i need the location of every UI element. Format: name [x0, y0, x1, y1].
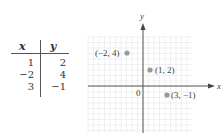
point-label: (3, −1) [171, 90, 196, 100]
x-axis-arrow-icon [208, 84, 215, 89]
point-label: (1, 2) [155, 65, 175, 75]
point-label: (−2, 4) [95, 48, 120, 58]
y-axis-label: y [139, 11, 144, 21]
x-axis-label: x [216, 81, 221, 91]
point-marker [147, 67, 152, 72]
origin-label: 0 [136, 88, 141, 98]
point-marker [124, 50, 129, 55]
y-axis-arrow-icon [141, 23, 146, 30]
coordinate-plane: x y 0 (−2, 4) (1, 2) (3, −1) [0, 0, 222, 137]
point-marker [164, 92, 169, 97]
